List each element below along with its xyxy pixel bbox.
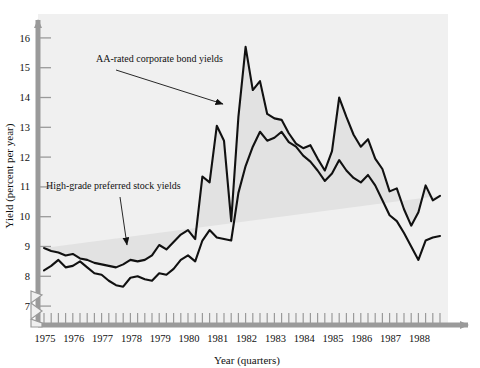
y-axis-tick-labels: 78910111213141516 xyxy=(20,33,31,312)
y-tick-label: 16 xyxy=(20,33,31,44)
y-tick-label: 12 xyxy=(20,152,31,163)
x-tick-label: 1986 xyxy=(351,333,372,344)
x-tick-label: 1977 xyxy=(92,333,113,344)
x-axis-tick-labels: 1975197619771978197919801981198219831984… xyxy=(35,333,430,344)
x-tick-label: 1976 xyxy=(63,333,84,344)
y-tick-label: 8 xyxy=(25,271,30,282)
x-axis-title: Year (quarters) xyxy=(214,354,280,367)
x-tick-label: 1975 xyxy=(35,333,56,344)
x-tick-label: 1979 xyxy=(150,333,171,344)
y-tick-label: 14 xyxy=(20,92,31,103)
annot-upper-label: AA-rated corporate bond yields xyxy=(96,53,223,64)
x-tick-label: 1980 xyxy=(179,333,200,344)
x-tick-label: 1981 xyxy=(207,333,228,344)
y-tick-label: 11 xyxy=(20,181,30,192)
x-tick-label: 1987 xyxy=(380,333,401,344)
y-tick-label: 7 xyxy=(25,301,30,312)
annot-lower-label: High-grade preferred stock yields xyxy=(46,180,181,191)
x-tick-label: 1983 xyxy=(265,333,286,344)
chart-figure: 78910111213141516 1975197619771978197919… xyxy=(0,0,480,368)
x-tick-label: 1984 xyxy=(294,333,316,344)
x-tick-label: 1978 xyxy=(121,333,142,344)
y-tick-label: 15 xyxy=(20,62,31,73)
x-tick-label: 1985 xyxy=(323,333,344,344)
y-axis-title: Yield (percent per year) xyxy=(3,123,16,228)
y-tick-label: 9 xyxy=(25,241,30,252)
yield-band-chart: 78910111213141516 1975197619771978197919… xyxy=(0,0,480,368)
x-tick-label: 1988 xyxy=(409,333,430,344)
y-tick-label: 13 xyxy=(20,122,31,133)
x-tick-label: 1982 xyxy=(236,333,257,344)
y-tick-label: 10 xyxy=(20,211,31,222)
